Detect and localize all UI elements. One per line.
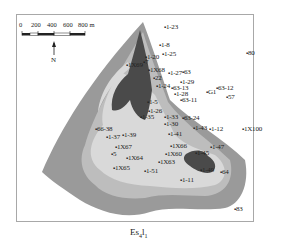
well-marker: ▪1-23: [164, 24, 178, 31]
well-marker: ▪5: [111, 151, 116, 158]
well-label: 1X100: [244, 125, 262, 133]
well-label: 1X67: [117, 143, 132, 151]
well-marker: ▪1-25: [162, 51, 176, 58]
well-marker: ▪1-8: [159, 42, 170, 49]
well-marker: ▪1X100: [242, 126, 262, 133]
well-marker: ▪1-43: [193, 125, 207, 132]
well-label: 63-24: [184, 114, 199, 122]
well-marker: ▪7: [143, 59, 148, 66]
well-label: 1X60: [167, 150, 182, 158]
well-label: 1X65: [115, 164, 130, 172]
scale-label-0: 0: [19, 21, 22, 28]
well-marker: ▪1X65: [113, 165, 130, 172]
well-marker: ▪1X67: [115, 144, 132, 151]
well-label: 1-27: [170, 69, 182, 77]
well-marker: ▪1X66: [170, 143, 187, 150]
well-label: 1X64: [128, 154, 143, 162]
well-marker: ▪1-51: [144, 168, 158, 175]
well-label: 63-11: [182, 96, 197, 104]
well-label: 63: [184, 68, 191, 76]
north-arrow-icon: [52, 41, 56, 55]
well-label: 83: [236, 205, 243, 213]
well-label: 80: [248, 49, 255, 57]
well-label: 1-41: [170, 130, 182, 138]
well-marker: ▪1-24: [156, 83, 170, 90]
well-marker: ▪1X64: [126, 155, 143, 162]
scale-label-200: 200: [31, 21, 41, 28]
well-label: 1-5: [149, 98, 158, 106]
well-marker: ▪1-49: [200, 167, 214, 174]
well-marker: ▪1X60: [165, 151, 182, 158]
well-label: G1: [208, 88, 216, 96]
well-marker: ▪1-45: [195, 150, 209, 157]
scale-label-400: 400: [47, 21, 57, 28]
well-marker: ▪1X68: [148, 67, 165, 74]
well-label: 1X66: [172, 142, 187, 150]
well-label: 22: [155, 74, 162, 82]
well-marker: ▪63: [182, 69, 191, 76]
caption-main: Es: [130, 227, 139, 237]
scale-label-600: 600: [63, 21, 73, 28]
well-label: 1-47: [212, 143, 224, 151]
well-label: 1-12: [211, 125, 223, 133]
well-label: 1-25: [164, 50, 176, 58]
well-marker: ▪G1: [206, 89, 216, 96]
well-label: 57: [228, 93, 235, 101]
well-label: 1-23: [166, 23, 178, 31]
well-label: 1-11: [182, 176, 194, 184]
well-label: 1-24: [158, 82, 170, 90]
well-label: 1-39: [124, 131, 136, 139]
well-marker: ▪63-11: [180, 97, 197, 104]
well-marker: ▪57: [226, 94, 235, 101]
scale-bar: [22, 31, 85, 36]
well-marker: ▪66-38: [95, 126, 112, 133]
well-marker: ▪80: [246, 50, 255, 57]
well-marker: ▪64: [220, 169, 229, 176]
well-marker: ▪1-35: [140, 114, 154, 121]
well-marker: ▪63-12: [216, 85, 233, 92]
well-marker: ▪1-27: [168, 70, 182, 77]
well-label: 7: [145, 58, 148, 66]
map-caption: Es4l1: [130, 227, 148, 238]
well-label: 1-30: [166, 120, 178, 128]
well-label: 1-49: [202, 166, 214, 174]
well-label: 1-37: [108, 133, 120, 141]
well-marker: ▪1X69: [126, 62, 143, 69]
well-label: 63-12: [218, 84, 233, 92]
well-marker: ▪63-24: [182, 115, 199, 122]
well-marker: ▪22: [153, 75, 162, 82]
well-label: 1X69: [128, 61, 143, 69]
well-marker: ▪1-11: [180, 177, 194, 184]
well-label: 5: [113, 150, 116, 158]
well-marker: ▪1X63: [158, 159, 175, 166]
well-marker: ▪1-39: [122, 132, 136, 139]
well-marker: ▪1-47: [210, 144, 224, 151]
well-label: 66-38: [97, 125, 112, 133]
well-label: 1-35: [142, 113, 154, 121]
scale-label-800: 800 m: [78, 21, 94, 28]
well-label: 1-8: [161, 41, 170, 49]
well-label: 1X68: [150, 66, 165, 74]
well-label: 1-51: [146, 167, 158, 175]
well-marker: ▪1-41: [168, 131, 182, 138]
well-label: 1-45: [197, 149, 209, 157]
well-marker: ▪1-12: [209, 126, 223, 133]
north-label: N: [51, 56, 56, 64]
well-label: 1-43: [195, 124, 207, 132]
well-marker: ▪1-37: [106, 134, 120, 141]
well-marker: ▪1-30: [164, 121, 178, 128]
well-label: 1X63: [160, 158, 175, 166]
well-label: 1-20: [147, 53, 159, 61]
caption-sub2: 1: [145, 233, 148, 238]
well-marker: ▪83: [234, 206, 243, 213]
well-marker: ▪1-5: [147, 99, 158, 106]
well-label: 64: [222, 168, 229, 176]
